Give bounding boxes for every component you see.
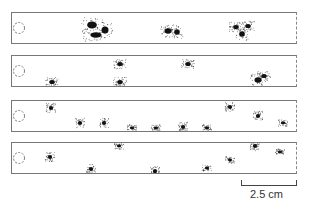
colony-blob — [281, 122, 285, 125]
colony-blob — [49, 80, 55, 84]
colony-blob — [228, 105, 232, 109]
colony-blob — [130, 127, 134, 130]
origin-circle-icon — [14, 66, 25, 77]
strip-4 — [11, 142, 297, 174]
colony-blob — [48, 155, 52, 159]
colony-blob — [278, 151, 282, 154]
colony-blob — [185, 62, 191, 66]
colony-blob — [245, 24, 251, 28]
colony-blob — [117, 80, 123, 84]
colony-blob — [90, 32, 101, 38]
colony-blob — [255, 77, 262, 83]
colony-blob — [49, 106, 53, 110]
scale-bar — [241, 180, 297, 186]
colony-blob — [78, 121, 82, 125]
colony-blob — [239, 31, 245, 37]
colony-blob — [181, 125, 185, 129]
colony-blob — [228, 159, 232, 162]
colony-blob — [87, 22, 97, 29]
colony-blob — [233, 25, 239, 29]
colony-blob — [256, 114, 260, 118]
colony-blob — [205, 167, 209, 170]
colony-blob — [89, 167, 93, 171]
colony-blob — [117, 62, 123, 66]
colony-blob — [102, 27, 109, 34]
strip-1 — [11, 12, 297, 44]
origin-circle-icon — [14, 23, 25, 34]
strip-plot — [12, 56, 296, 86]
colony-blob — [102, 121, 106, 125]
strip-2 — [11, 55, 297, 87]
strip-plot — [12, 101, 296, 131]
colony-blob — [117, 145, 121, 148]
colony-blob — [153, 169, 157, 173]
scale-bar-label: 2.5 cm — [250, 188, 283, 200]
colony-blob — [205, 127, 209, 130]
colony-blob — [154, 127, 158, 130]
colony-blob — [174, 29, 180, 35]
strip-plot — [12, 13, 296, 43]
origin-circle-icon — [14, 153, 25, 164]
strip-3 — [11, 100, 297, 132]
colony-blob — [261, 74, 267, 78]
colony-blob — [253, 144, 257, 148]
origin-circle-icon — [14, 111, 25, 122]
strip-plot — [12, 143, 296, 173]
